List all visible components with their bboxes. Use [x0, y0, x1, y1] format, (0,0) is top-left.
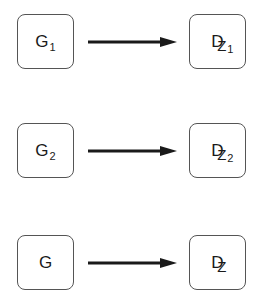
node-dz-label: DZ — [211, 254, 223, 271]
node-g: G — [17, 235, 74, 290]
node-dz2-label: DZ2 — [211, 142, 223, 159]
node-g-label: G — [39, 254, 52, 271]
arrow-right-icon — [88, 257, 178, 269]
node-dz1-label: DZ1 — [211, 33, 223, 50]
node-dz2: DZ2 — [189, 123, 246, 178]
node-dz: DZ — [189, 235, 246, 290]
node-g2-label: G2 — [35, 142, 55, 159]
node-dz1: DZ1 — [189, 14, 246, 69]
arrow-right-icon — [88, 36, 178, 48]
arrow-right-icon — [88, 145, 178, 157]
node-g1: G1 — [17, 14, 74, 69]
node-g2: G2 — [17, 123, 74, 178]
node-g1-label: G1 — [35, 33, 55, 50]
